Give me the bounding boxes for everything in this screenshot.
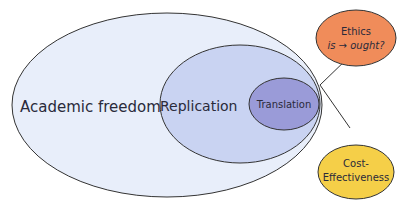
cost-subtitle: Effectiveness bbox=[323, 172, 390, 183]
callout-ethics: Ethics is → ought? bbox=[316, 10, 396, 66]
ethics-title: Ethics bbox=[341, 26, 371, 37]
set-translation: Translation bbox=[249, 78, 319, 130]
venn-diagram: Academic freedom Replication Translation… bbox=[0, 0, 401, 205]
ethics-subtitle: is → ought? bbox=[327, 40, 385, 51]
callout-cost-effectiveness: Cost- Effectiveness bbox=[318, 145, 394, 199]
set-label-academic-freedom: Academic freedom bbox=[20, 98, 161, 116]
cost-title: Cost- bbox=[343, 158, 369, 169]
set-label-translation: Translation bbox=[256, 99, 312, 110]
connector-cost bbox=[320, 85, 350, 128]
set-label-replication: Replication bbox=[160, 98, 237, 114]
arrow-right-icon: → bbox=[339, 40, 347, 51]
